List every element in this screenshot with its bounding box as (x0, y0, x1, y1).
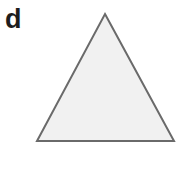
triangle-shape (37, 14, 174, 141)
figure-canvas: d (0, 0, 184, 169)
triangle-graphic (0, 0, 184, 169)
